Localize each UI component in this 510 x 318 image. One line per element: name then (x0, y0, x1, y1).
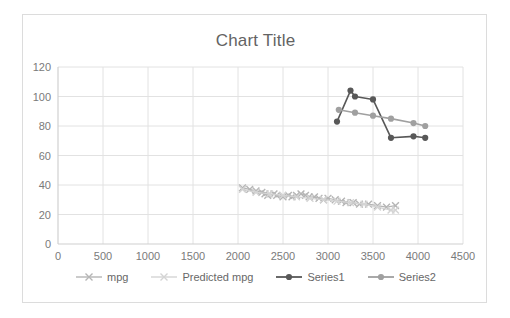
legend-cross-marker-icon (75, 271, 103, 283)
y-axis-tick-label: 0 (45, 238, 51, 250)
data-point-marker (422, 135, 428, 141)
y-axis-tick-label: 120 (33, 61, 51, 73)
x-axis-tick-label: 3000 (316, 250, 340, 262)
y-axis-tick-label: 80 (39, 120, 51, 132)
chart-frame: Chart Title 0204060801001200500100015002… (22, 14, 487, 303)
x-axis-tick-label: 1500 (181, 250, 205, 262)
legend-item-label: Predicted mpg (182, 271, 253, 283)
y-axis-tick-label: 60 (39, 150, 51, 162)
y-axis-tick-label: 100 (33, 91, 51, 103)
data-point-marker (370, 113, 376, 119)
data-point-marker (347, 88, 353, 94)
data-point-marker (388, 135, 394, 141)
series-line (337, 91, 425, 138)
legend-circle-marker-icon (367, 271, 395, 283)
x-axis-tick-label: 3500 (361, 250, 385, 262)
x-axis-tick-label: 1000 (136, 250, 160, 262)
x-axis-tick-label: 4000 (406, 250, 430, 262)
x-axis-tick-label: 4500 (451, 250, 475, 262)
legend-item-series2[interactable]: Series2 (367, 271, 436, 283)
y-axis-tick-label: 40 (39, 179, 51, 191)
legend-item-predicted-mpg[interactable]: Predicted mpg (150, 271, 253, 283)
data-point-marker (352, 110, 358, 116)
data-point-marker (388, 116, 394, 122)
data-point-marker (410, 133, 416, 139)
data-point-marker (336, 107, 342, 113)
data-point-marker (352, 93, 358, 99)
plot-area: 0204060801001200500100015002000250030003… (23, 15, 488, 275)
x-axis-tick-label: 2000 (226, 250, 250, 262)
legend-circle-marker-icon (275, 271, 303, 283)
legend-cross-marker-icon (150, 271, 178, 283)
data-point-marker (410, 120, 416, 126)
series-predicted-mpg (239, 186, 399, 213)
legend-item-label: mpg (107, 271, 128, 283)
data-point-marker (370, 96, 376, 102)
legend-item-mpg[interactable]: mpg (75, 271, 128, 283)
legend-item-label: Series1 (307, 271, 344, 283)
x-axis-tick-label: 2500 (271, 250, 295, 262)
legend-item-label: Series2 (399, 271, 436, 283)
x-axis-tick-label: 0 (55, 250, 61, 262)
data-point-marker (334, 118, 340, 124)
legend-item-series1[interactable]: Series1 (275, 271, 344, 283)
x-axis-tick-label: 500 (94, 250, 112, 262)
chart-legend: mpgPredicted mpgSeries1Series2 (23, 271, 488, 283)
series-series1 (334, 88, 428, 141)
data-point-marker (422, 123, 428, 129)
y-axis-tick-label: 20 (39, 209, 51, 221)
